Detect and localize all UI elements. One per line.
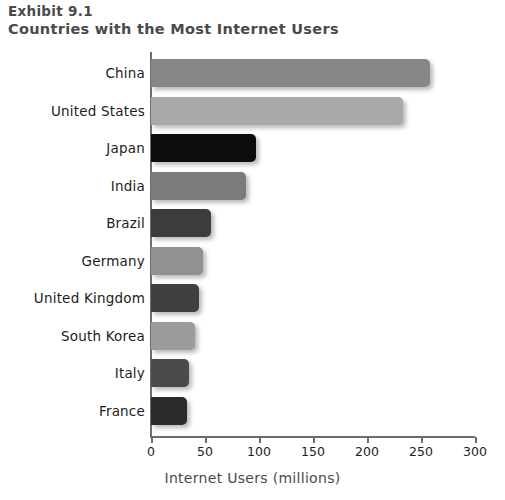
category-label: South Korea [61, 319, 145, 353]
x-tick-mark [367, 437, 369, 443]
category-label: United Kingdom [34, 281, 145, 315]
bar-row: United States [0, 94, 505, 128]
bar-row: India [0, 169, 505, 203]
x-tick-label: 150 [293, 444, 333, 459]
bar-row: Japan [0, 131, 505, 165]
bar-row: France [0, 394, 505, 428]
category-label: France [99, 394, 145, 428]
x-tick-label: 100 [239, 444, 279, 459]
bar [151, 322, 195, 350]
bar [151, 209, 211, 237]
x-tick-label: 300 [455, 444, 495, 459]
bar-row: China [0, 56, 505, 90]
bar [151, 247, 203, 275]
exhibit-number: Exhibit 9.1 [8, 3, 488, 20]
x-tick-mark [259, 437, 261, 443]
x-tick-mark [205, 437, 207, 443]
category-label: United States [51, 94, 145, 128]
category-label: India [111, 169, 145, 203]
bar-row: Brazil [0, 206, 505, 240]
bar [151, 284, 199, 312]
chart-figure: Exhibit 9.1 Countries with the Most Inte… [0, 0, 505, 500]
x-tick-label: 0 [131, 444, 171, 459]
plot-area: ChinaUnited StatesJapanIndiaBrazilGerman… [0, 52, 505, 442]
bar [151, 172, 246, 200]
x-tick-label: 200 [347, 444, 387, 459]
chart-header: Exhibit 9.1 Countries with the Most Inte… [8, 3, 488, 38]
category-label: China [105, 56, 145, 90]
category-label: Italy [115, 356, 145, 390]
bar [151, 397, 187, 425]
bar-row: Italy [0, 356, 505, 390]
bar [151, 59, 430, 87]
bar [151, 359, 189, 387]
category-label: Germany [82, 244, 145, 278]
bar-row: Germany [0, 244, 505, 278]
category-label: Japan [106, 131, 145, 165]
bar [151, 134, 256, 162]
x-tick-mark [151, 437, 153, 443]
x-tick-mark [475, 437, 477, 443]
x-tick-label: 50 [185, 444, 225, 459]
x-axis-label: Internet Users (millions) [0, 470, 505, 486]
bar [151, 97, 403, 125]
bar-row: South Korea [0, 319, 505, 353]
x-tick-mark [421, 437, 423, 443]
x-tick-label: 250 [401, 444, 441, 459]
bar-row: United Kingdom [0, 281, 505, 315]
category-label: Brazil [106, 206, 145, 240]
x-tick-mark [313, 437, 315, 443]
chart-title: Countries with the Most Internet Users [8, 20, 488, 38]
